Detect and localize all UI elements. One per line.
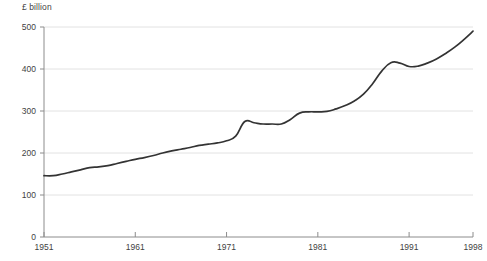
y-tick-label: 0 [10, 232, 36, 242]
y-tick-label: 100 [10, 190, 36, 200]
y-tick-label: 400 [10, 64, 36, 74]
x-tick-label: 1971 [210, 242, 244, 252]
y-tick-label: 300 [10, 106, 36, 116]
x-tick-label: 1991 [392, 242, 426, 252]
x-tick-marks-group [40, 27, 473, 237]
data-series-line [44, 31, 473, 176]
x-tick-label: 1981 [301, 242, 335, 252]
x-tick-label: 1961 [118, 242, 152, 252]
x-tick-label: 1998 [456, 242, 487, 252]
x-tick-label: 1951 [27, 242, 61, 252]
gridlines-group [44, 27, 473, 195]
y-tick-label: 200 [10, 148, 36, 158]
y-tick-label: 500 [10, 22, 36, 32]
